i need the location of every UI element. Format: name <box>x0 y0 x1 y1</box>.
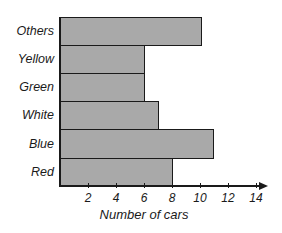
x-tick-label: 2 <box>78 191 98 205</box>
y-label-white: White <box>2 108 54 122</box>
x-tick-label: 6 <box>134 191 154 205</box>
x-tick-label: 12 <box>218 191 238 205</box>
bar-yellow <box>59 45 145 74</box>
bar-green <box>59 73 145 102</box>
x-tick <box>228 183 229 188</box>
x-tick <box>256 183 257 188</box>
x-tick-label: 14 <box>246 191 266 205</box>
y-label-others: Others <box>2 24 54 38</box>
y-label-blue: Blue <box>2 137 54 151</box>
bar-chart: Others Yellow Green White Blue Red 2 4 6… <box>0 0 282 233</box>
x-tick <box>200 183 201 188</box>
x-tick-label: 8 <box>162 191 182 205</box>
x-tick-label: 10 <box>190 191 210 205</box>
x-axis-arrow-icon <box>259 182 268 190</box>
y-label-green: Green <box>2 80 54 94</box>
bar-red <box>59 158 173 186</box>
y-label-yellow: Yellow <box>2 52 54 66</box>
x-axis-title: Number of cars <box>60 207 228 222</box>
x-axis <box>59 185 261 187</box>
x-tick <box>144 183 145 188</box>
x-tick <box>172 183 173 188</box>
bar-white <box>59 101 159 130</box>
bar-blue <box>59 129 214 159</box>
x-tick <box>116 183 117 188</box>
x-tick-label: 4 <box>106 191 126 205</box>
y-axis <box>59 17 61 186</box>
x-tick <box>88 183 89 188</box>
y-label-red: Red <box>2 165 54 179</box>
bar-others <box>59 17 202 46</box>
